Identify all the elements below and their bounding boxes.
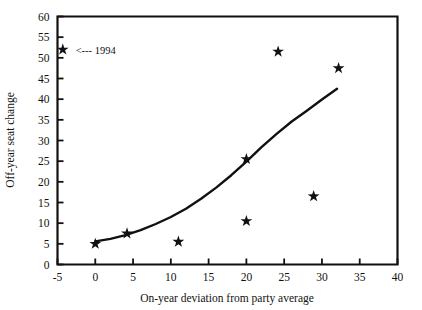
y-tick-label: 25 bbox=[38, 155, 50, 167]
y-tick-label: 15 bbox=[38, 197, 50, 209]
x-axis-tick-labels: -50510152025303540 bbox=[53, 271, 404, 283]
y-tick-label: 30 bbox=[38, 135, 50, 147]
y-tick-label: 20 bbox=[38, 176, 50, 188]
x-tick-label: 35 bbox=[354, 271, 366, 283]
y-tick-label: 60 bbox=[38, 11, 50, 23]
y-tick-label: 55 bbox=[38, 31, 50, 43]
1994-callout: <--- 1994 bbox=[76, 45, 117, 56]
chart-annotations: <--- 1994 bbox=[76, 45, 117, 56]
x-tick-label: 0 bbox=[92, 271, 98, 283]
data-point-star bbox=[57, 43, 69, 54]
y-axis-tick-labels: 051015202530354045505560 bbox=[38, 11, 50, 271]
y-tick-label: 0 bbox=[44, 259, 50, 271]
x-tick-label: 10 bbox=[165, 271, 177, 283]
y-axis-title: Off-year seat change bbox=[4, 92, 17, 188]
x-tick-label: 40 bbox=[392, 271, 404, 283]
x-tick-label: 30 bbox=[316, 271, 328, 283]
y-tick-label: 5 bbox=[44, 238, 50, 250]
data-point-star bbox=[333, 62, 345, 73]
y-tick-label: 45 bbox=[38, 73, 50, 85]
x-tick-label: -5 bbox=[53, 271, 63, 283]
data-point-star bbox=[308, 190, 320, 201]
scatter-plot-canvas: 051015202530354045505560 -50510152025303… bbox=[0, 0, 422, 310]
data-point-star bbox=[89, 238, 101, 249]
data-point-star bbox=[240, 215, 252, 226]
data-point-markers bbox=[57, 43, 345, 248]
x-tick-label: 20 bbox=[241, 271, 253, 283]
y-tick-label: 10 bbox=[38, 217, 50, 229]
y-tick-label: 40 bbox=[38, 93, 50, 105]
data-point-star bbox=[272, 45, 284, 56]
x-tick-label: 25 bbox=[278, 271, 290, 283]
y-tick-label: 35 bbox=[38, 114, 50, 126]
x-tick-label: 15 bbox=[203, 271, 215, 283]
data-point-star bbox=[172, 236, 184, 247]
chart-figure: 051015202530354045505560 -50510152025303… bbox=[0, 0, 422, 310]
x-axis-title: On-year deviation from party average bbox=[140, 292, 314, 305]
fitted-curve bbox=[95, 89, 337, 242]
y-tick-label: 50 bbox=[38, 52, 50, 64]
x-tick-label: 5 bbox=[130, 271, 136, 283]
